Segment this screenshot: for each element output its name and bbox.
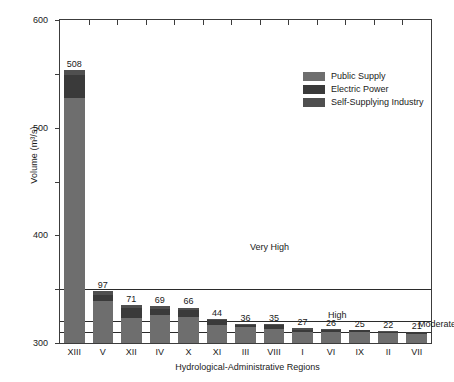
y-axis-tick-label: 500 (33, 128, 48, 129)
bar-XII[interactable]: 71XII (121, 305, 142, 343)
bar-segment (64, 98, 85, 343)
top-axis-tick (317, 20, 318, 25)
top-axis-tick (374, 20, 375, 25)
top-axis-tick (203, 20, 204, 25)
bar-XI[interactable]: 44XI (207, 319, 228, 343)
x-axis-tick-label: VIII (267, 347, 281, 357)
chart-figure: Volume (m³/s) Hydrological-Administrativ… (0, 0, 454, 382)
legend-swatch (303, 98, 325, 107)
y-axis-title: Volume (m³/s) (29, 95, 39, 215)
plot-inner: 0100200300400500600 508XIII97V71XII69IV6… (60, 20, 431, 343)
x-axis-tick-label: II (386, 347, 391, 357)
x-axis-tick-label: V (100, 347, 106, 357)
x-axis-tick-label: IV (156, 347, 165, 357)
legend-label: Public Supply (331, 71, 386, 81)
top-axis-tick (345, 20, 346, 25)
bar-segment (178, 317, 199, 343)
threshold-line (60, 289, 431, 290)
bar-III[interactable]: 36III (235, 324, 256, 343)
top-axis-tick (231, 20, 232, 25)
bar-XIII[interactable]: 508XIII (64, 70, 85, 343)
y-axis-tick: 0 (55, 343, 60, 344)
bar-value-label: 27 (298, 317, 308, 327)
y-axis-tick-label: 400 (33, 235, 48, 236)
y-axis-tick: 200 (55, 235, 60, 236)
bar-segment (378, 333, 399, 343)
y-axis-tick: 400 (55, 128, 60, 129)
bar-segment (235, 327, 256, 343)
bar-VI[interactable]: 26VI (321, 329, 342, 343)
bar-value-label: 71 (126, 294, 136, 304)
bar-value-label: 35 (269, 313, 279, 323)
legend-label: Self-Supplying Industry (331, 97, 424, 107)
x-axis-tick-label: VI (327, 347, 336, 357)
plot-area: 0100200300400500600 508XIII97V71XII69IV6… (59, 19, 432, 344)
bar-value-label: 508 (67, 59, 82, 69)
x-axis-title: Hydrological-Administrative Regions (55, 362, 440, 372)
bar-II[interactable]: 22II (378, 331, 399, 343)
bar-segment (121, 308, 142, 318)
bar-value-label: 97 (98, 280, 108, 290)
x-axis-tick-label: XII (126, 347, 137, 357)
bar-value-label: 36 (240, 313, 250, 323)
bar-V[interactable]: 97V (93, 291, 114, 343)
bar-IV[interactable]: 69IV (150, 306, 171, 343)
top-axis-tick (260, 20, 261, 25)
bar-VII[interactable]: 21VII (406, 332, 427, 343)
y-axis-tick: 600 (55, 20, 60, 21)
legend-swatch (303, 85, 325, 94)
bar-segment (207, 325, 228, 343)
y-axis-tick-label: 300 (33, 343, 48, 344)
bar-segment (93, 301, 114, 343)
x-axis-tick-label: III (242, 347, 250, 357)
y-axis-tick-label: 600 (33, 20, 48, 21)
bar-segment (321, 332, 342, 343)
zone-label-moderate: Moderate (418, 319, 454, 329)
top-axis-tick (174, 20, 175, 25)
legend-label: Electric Power (331, 84, 389, 94)
x-axis-tick-label: I (301, 347, 304, 357)
bar-value-label: 69 (155, 295, 165, 305)
legend-item[interactable]: Electric Power (303, 84, 424, 94)
legend-item[interactable]: Public Supply (303, 71, 424, 81)
bar-segment (264, 329, 285, 343)
bar-value-label: 44 (212, 308, 222, 318)
top-axis-tick (89, 20, 90, 25)
zone-label-very-high: Very High (250, 242, 289, 252)
top-axis-tick (146, 20, 147, 25)
bar-VIII[interactable]: 35VIII (264, 324, 285, 343)
zone-label-high: High (328, 310, 347, 320)
y-axis-tick: 300 (55, 182, 60, 183)
bar-segment (150, 315, 171, 343)
bar-segment (406, 334, 427, 343)
bar-segment (349, 332, 370, 343)
bar-IX[interactable]: 25IX (349, 330, 370, 343)
bar-X[interactable]: 66X (178, 307, 199, 343)
x-axis-tick-label: XI (213, 347, 222, 357)
bar-segment (292, 332, 313, 343)
bar-value-label: 22 (383, 320, 393, 330)
legend-swatch (303, 72, 325, 81)
legend: Public SupplyElectric PowerSelf-Supplyin… (303, 71, 424, 110)
x-axis-tick-label: IX (355, 347, 364, 357)
top-axis-tick (288, 20, 289, 25)
top-axis-tick (117, 20, 118, 25)
top-axis-tick (402, 20, 403, 25)
x-axis-tick-label: XIII (67, 347, 81, 357)
bar-value-label: 25 (355, 319, 365, 329)
bar-segment (64, 75, 85, 98)
bar-segment (178, 310, 199, 318)
bar-I[interactable]: 27I (292, 328, 313, 343)
x-axis-tick-label: VII (411, 347, 422, 357)
y-axis-tick: 500 (55, 74, 60, 75)
x-axis-tick-label: X (185, 347, 191, 357)
bar-value-label: 66 (183, 296, 193, 306)
bar-segment (121, 318, 142, 343)
legend-item[interactable]: Self-Supplying Industry (303, 97, 424, 107)
